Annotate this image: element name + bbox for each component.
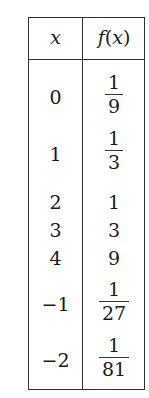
fraction: 13 (105, 129, 123, 172)
function-value-table: x f(x) 0 19 1 13 2 1 3 3 4 9 −1 127 −2 1… (28, 17, 145, 390)
denominator: 81 (99, 357, 129, 379)
cell-x-6: −2 (29, 351, 82, 370)
denominator: 9 (105, 94, 123, 116)
denominator: 27 (99, 301, 129, 323)
cell-fx-3: 3 (83, 221, 145, 240)
numerator: 1 (105, 280, 123, 301)
fraction: 127 (99, 280, 129, 323)
header-x: x (29, 28, 82, 47)
cell-x-2: 2 (29, 193, 82, 212)
cell-fx-6: 181 (83, 336, 145, 379)
denominator: 3 (105, 150, 123, 172)
header-fx-close: ) (123, 26, 130, 48)
cell-fx-1: 13 (83, 129, 145, 172)
header-fx-f: f (98, 26, 105, 48)
header-fx: f(x) (83, 28, 145, 47)
fraction: 181 (99, 336, 129, 379)
header-divider (29, 59, 144, 60)
numerator: 1 (105, 336, 123, 357)
header-fx-x: x (112, 26, 123, 48)
numerator: 1 (105, 129, 123, 150)
cell-fx-2: 1 (83, 193, 145, 212)
cell-fx-5: 127 (83, 280, 145, 323)
cell-x-3: 3 (29, 221, 82, 240)
numerator: 1 (105, 73, 123, 94)
cell-x-5: −1 (29, 295, 82, 314)
cell-x-4: 4 (29, 249, 82, 268)
cell-x-0: 0 (29, 88, 82, 107)
cell-fx-4: 9 (83, 249, 145, 268)
cell-x-1: 1 (29, 145, 82, 164)
fraction: 19 (105, 73, 123, 116)
cell-fx-0: 19 (83, 73, 145, 116)
